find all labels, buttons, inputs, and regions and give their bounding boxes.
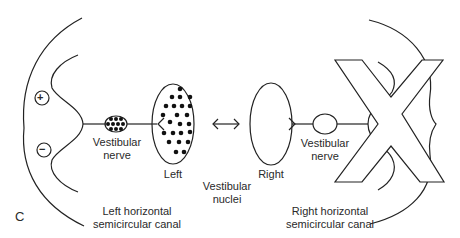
right-canal-label: Right horizontal semicircular canal (275, 205, 385, 231)
left-canal-label: Left horizontal semicircular canal (82, 205, 192, 231)
right-nucleus-label: Right (254, 168, 288, 181)
crossed-out-x-icon (335, 60, 444, 182)
right-vestibular-nerve (313, 114, 337, 134)
panel-label: C (15, 210, 24, 223)
nerve-dots (106, 117, 125, 131)
left-nucleus-label: Left (158, 168, 188, 181)
right-vestibular-nucleus (250, 83, 292, 165)
vestibular-nuclei-label: Vestibular nuclei (199, 180, 255, 206)
minus-icon: − (39, 143, 45, 156)
nucleus-dots (161, 87, 193, 155)
left-nerve-label: Vestibular nerve (92, 136, 142, 162)
left-canal-outer-arc (23, 18, 84, 226)
vestibular-diagram: + − Vestibular nerve Left Vestibular nuc… (0, 0, 460, 238)
left-cupula-wave (51, 55, 83, 192)
right-nerve-label: Vestibular nerve (300, 137, 350, 163)
plus-icon: + (37, 91, 43, 104)
